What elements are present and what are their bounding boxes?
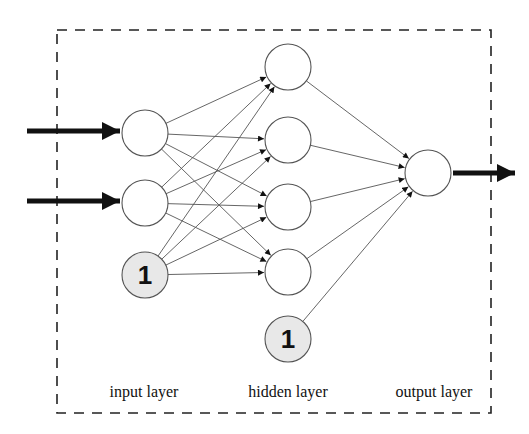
- connection-arrow: [310, 179, 404, 202]
- bias-node-input: 1: [122, 252, 168, 298]
- connection-arrow: [158, 87, 274, 256]
- connection-arrow: [168, 204, 264, 207]
- connection-arrow: [166, 77, 266, 123]
- connection-arrow: [168, 134, 264, 139]
- connection-arrow: [166, 213, 267, 262]
- bias-node-hidden: 1: [265, 316, 311, 362]
- connection-arrow: [165, 144, 266, 196]
- neuron-input: [122, 180, 168, 226]
- connection-arrow: [168, 273, 264, 275]
- neuron-hidden: [265, 44, 311, 90]
- connection-arrow: [307, 187, 409, 259]
- layer-labels: input layerhidden layeroutput layer: [110, 383, 474, 401]
- bias-value: 1: [281, 324, 295, 354]
- input-layer-label: input layer: [110, 383, 180, 401]
- connection-arrow: [161, 149, 270, 255]
- connection-arrow: [303, 191, 413, 321]
- neuron-hidden: [265, 184, 311, 230]
- neuron-hidden: [265, 117, 311, 163]
- hidden-layer-label: hidden layer: [248, 383, 328, 401]
- connection-arrow: [310, 145, 404, 167]
- neural-network-diagram: 11 input layerhidden layeroutput layer: [0, 0, 529, 434]
- neuron-input: [122, 110, 168, 156]
- neuron-hidden: [265, 249, 311, 295]
- bias-value: 1: [138, 260, 152, 290]
- neurons: 11: [122, 44, 451, 362]
- output-layer-label: output layer: [396, 383, 474, 401]
- neuron-output: [405, 150, 451, 196]
- connection-arrow: [306, 81, 409, 159]
